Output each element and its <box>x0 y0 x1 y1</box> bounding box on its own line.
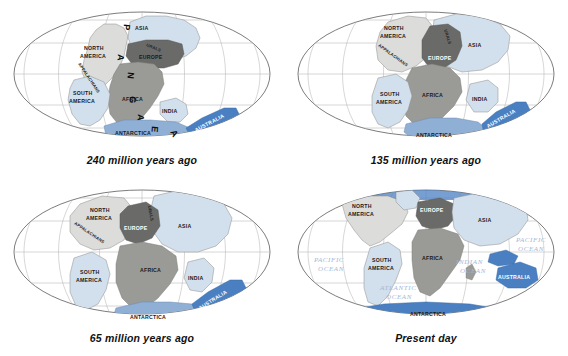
label-north-america-line2: AMERICA <box>380 33 406 39</box>
pangaea-letter-6: E <box>149 126 159 133</box>
label-india: INDIA <box>188 275 203 281</box>
label-south-america-line1: SOUTH <box>372 257 391 263</box>
pangaea-letter-1: P <box>121 24 131 31</box>
label-north-america-line1: NORTH <box>352 203 372 209</box>
label-south-america-line2: AMERICA <box>76 277 102 283</box>
map-panel-135ma: NORTH AMERICA ASIA EUROPE AFRICA SOUTH A… <box>284 0 568 178</box>
label-north-america-line1: NORTH <box>90 207 110 213</box>
label-pacific-ocean-east-line2: OCEAN <box>518 245 544 253</box>
label-antarctica: ANTARCTICA <box>416 132 452 138</box>
label-atlantic-ocean-line1: ATLANTIC <box>379 284 416 292</box>
label-india: INDIA <box>472 96 487 102</box>
label-north-america-line2: AMERICA <box>348 211 374 217</box>
map-panel-65ma: NORTH AMERICA ASIA EUROPE AFRICA SOUTH A… <box>0 178 284 356</box>
label-pacific-ocean-west-line2: OCEAN <box>318 265 344 273</box>
mollweide-map-135ma: NORTH AMERICA ASIA EUROPE AFRICA SOUTH A… <box>284 2 568 148</box>
label-europe: EUROPE <box>139 54 163 60</box>
label-indian-ocean-line2: OCEAN <box>460 267 486 275</box>
label-europe: EUROPE <box>124 225 148 231</box>
map-panel-present: NORTH AMERICA EUROPE ASIA AFRICA SOUTH A… <box>284 178 568 356</box>
label-pacific-ocean-east-line1: PACIFIC <box>515 236 546 244</box>
mollweide-map-240ma: ASIA NORTH AMERICA EUROPE AFRICA SOUTH A… <box>0 2 284 148</box>
label-south-america-line1: SOUTH <box>73 90 92 96</box>
label-south-america-line2: AMERICA <box>376 99 402 105</box>
label-antarctica: ANTARCTICA <box>115 130 151 136</box>
label-europe: EUROPE <box>428 55 452 61</box>
label-asia: ASIA <box>178 223 191 229</box>
label-india: INDIA <box>162 108 177 114</box>
label-south-america-line2: AMERICA <box>368 265 394 271</box>
label-asia: ASIA <box>468 42 481 48</box>
panel-caption-135ma: 135 million years ago <box>284 154 568 166</box>
label-atlantic-ocean-line2: OCEAN <box>386 293 412 301</box>
label-antarctica: ANTARCTICA <box>130 314 166 320</box>
pangaea-letter-4: G <box>127 96 138 104</box>
label-africa: AFRICA <box>140 267 161 273</box>
label-north-america-line1: NORTH <box>84 45 104 51</box>
label-africa: AFRICA <box>422 255 443 261</box>
panel-caption-present: Present day <box>284 332 568 344</box>
label-south-america-line1: SOUTH <box>80 269 99 275</box>
landmass-antarctica <box>404 118 488 142</box>
label-antarctica: ANTARCTICA <box>410 311 446 317</box>
label-south-america-line1: SOUTH <box>380 91 399 97</box>
label-pacific-ocean-west-line1: PACIFIC <box>313 256 344 264</box>
label-north-america-line1: NORTH <box>384 25 404 31</box>
label-europe: EUROPE <box>420 207 444 213</box>
panel-caption-240ma: 240 million years ago <box>0 154 284 166</box>
label-north-america-line2: AMERICA <box>86 215 112 221</box>
label-asia: ASIA <box>135 25 148 31</box>
label-australia: AUSTRALIA <box>498 274 530 280</box>
pangaea-letter-3: N <box>125 72 136 79</box>
label-asia: ASIA <box>478 217 491 223</box>
label-north-america-line2: AMERICA <box>80 53 106 59</box>
panel-caption-65ma: 65 million years ago <box>0 332 284 344</box>
panel-grid: ASIA NORTH AMERICA EUROPE AFRICA SOUTH A… <box>0 0 568 356</box>
mollweide-map-65ma: NORTH AMERICA ASIA EUROPE AFRICA SOUTH A… <box>0 180 284 326</box>
mollweide-map-present: NORTH AMERICA EUROPE ASIA AFRICA SOUTH A… <box>284 180 568 326</box>
label-indian-ocean-line1: INDIAN <box>455 258 483 266</box>
map-panel-240ma: ASIA NORTH AMERICA EUROPE AFRICA SOUTH A… <box>0 0 284 178</box>
label-south-america-line2: AMERICA <box>69 98 95 104</box>
label-africa: AFRICA <box>422 92 443 98</box>
